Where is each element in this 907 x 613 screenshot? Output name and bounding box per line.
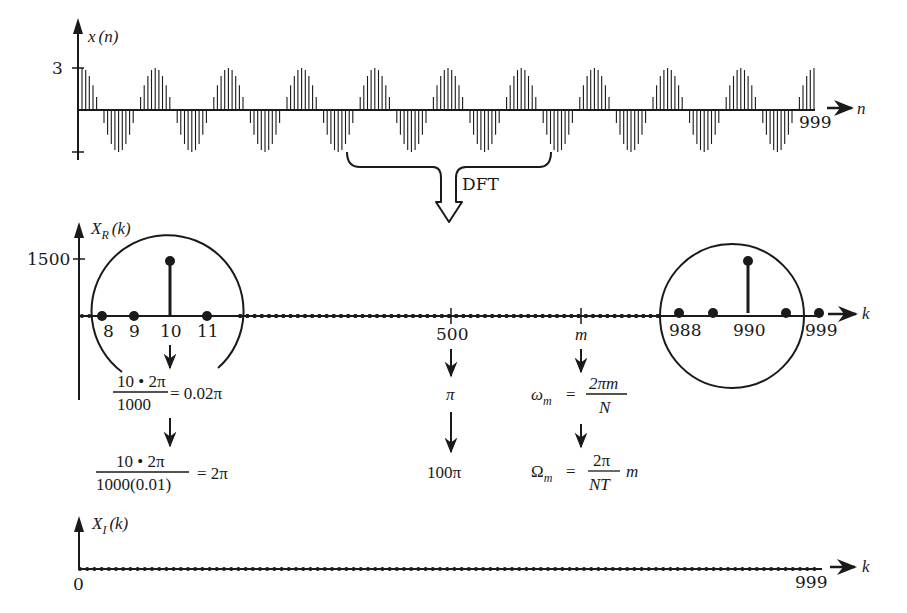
- annotation-middle: π 100π: [427, 349, 462, 482]
- signal-ylabel: x(n): [87, 27, 119, 46]
- dft-transform-arrow: DFT: [347, 152, 551, 222]
- real-y-axis-arrow-icon: [74, 222, 84, 238]
- highlight-circle-left: [92, 235, 244, 372]
- dft-bracket-icon: [347, 152, 551, 222]
- sample-dot-k988: [674, 308, 684, 318]
- real-ytick-label: 1500: [27, 249, 70, 269]
- imag-zero-samples: [78, 567, 816, 571]
- imag-ylabel: XI(k): [91, 514, 129, 537]
- omega-m-numerator: 2πm: [589, 374, 618, 393]
- sample-dot-k8: [97, 311, 107, 321]
- signal-ytick-label: 3: [52, 58, 63, 78]
- stem-head-k10: [165, 256, 175, 266]
- freq-formula-1-numerator: 10 • 2π: [117, 372, 166, 391]
- sample-dot-k999: [814, 308, 824, 318]
- real-xlabel: k: [862, 304, 870, 323]
- stem-head-k990: [743, 256, 753, 266]
- imag-part-plot: XI(k) k 0 999: [73, 514, 870, 594]
- signal-x-end-label: 999: [799, 112, 831, 132]
- imag-xlabel: k: [862, 557, 870, 576]
- Omega-m-tail: m: [626, 462, 638, 481]
- signal-y-axis-arrow-icon: [73, 18, 83, 34]
- tick-label-999: 999: [805, 320, 837, 340]
- hundred-pi-label: 100π: [427, 463, 462, 482]
- signal-xlabel: n: [857, 99, 866, 118]
- sample-dot-k9: [129, 311, 139, 321]
- freq-formula-2-denominator: 1000(0.01): [96, 475, 171, 494]
- imag-x-end-label: 999: [795, 572, 827, 592]
- sample-dot-k11: [202, 311, 212, 321]
- tick-label-988: 988: [669, 320, 701, 340]
- dft-diagram: 3 x(n) n 999 DFT 1500 XR(k) k: [0, 0, 907, 613]
- annotation-right: ωm = 2πm N Ωm = 2π NT m: [531, 349, 638, 494]
- tick-label-11: 11: [197, 321, 219, 341]
- signal-plot: 3 x(n) n 999: [52, 18, 866, 160]
- imag-y-axis-arrow-icon: [74, 516, 84, 532]
- imag-x-start-label: 0: [73, 574, 84, 594]
- tick-label-500: 500: [436, 324, 468, 344]
- omega-m-denominator: N: [598, 398, 612, 417]
- sample-dot-k991: [781, 308, 791, 318]
- omega-m-formula-lhs: ωm: [531, 385, 552, 408]
- Omega-m-denominator: NT: [588, 475, 611, 494]
- tick-label-10: 10: [160, 321, 182, 341]
- tick-label-9: 9: [129, 321, 140, 341]
- freq-formula-2-result: = 2π: [197, 464, 228, 483]
- pi-label: π: [446, 385, 455, 404]
- Omega-m-formula-lhs: Ωm: [531, 462, 553, 485]
- tick-label-990: 990: [733, 320, 765, 340]
- freq-formula-2-numerator: 10 • 2π: [116, 452, 165, 471]
- sample-dot-k989: [708, 308, 718, 318]
- real-ylabel: XR(k): [90, 219, 131, 242]
- tick-label-m: m: [575, 325, 587, 344]
- tick-label-8: 8: [103, 321, 114, 341]
- dft-label: DFT: [462, 174, 499, 194]
- equals-sign: =: [566, 385, 576, 404]
- equals-sign: =: [566, 462, 576, 481]
- freq-formula-1-result: = 0.02π: [170, 384, 223, 403]
- freq-formula-1-denominator: 1000: [117, 395, 151, 414]
- Omega-m-numerator: 2π: [593, 451, 611, 470]
